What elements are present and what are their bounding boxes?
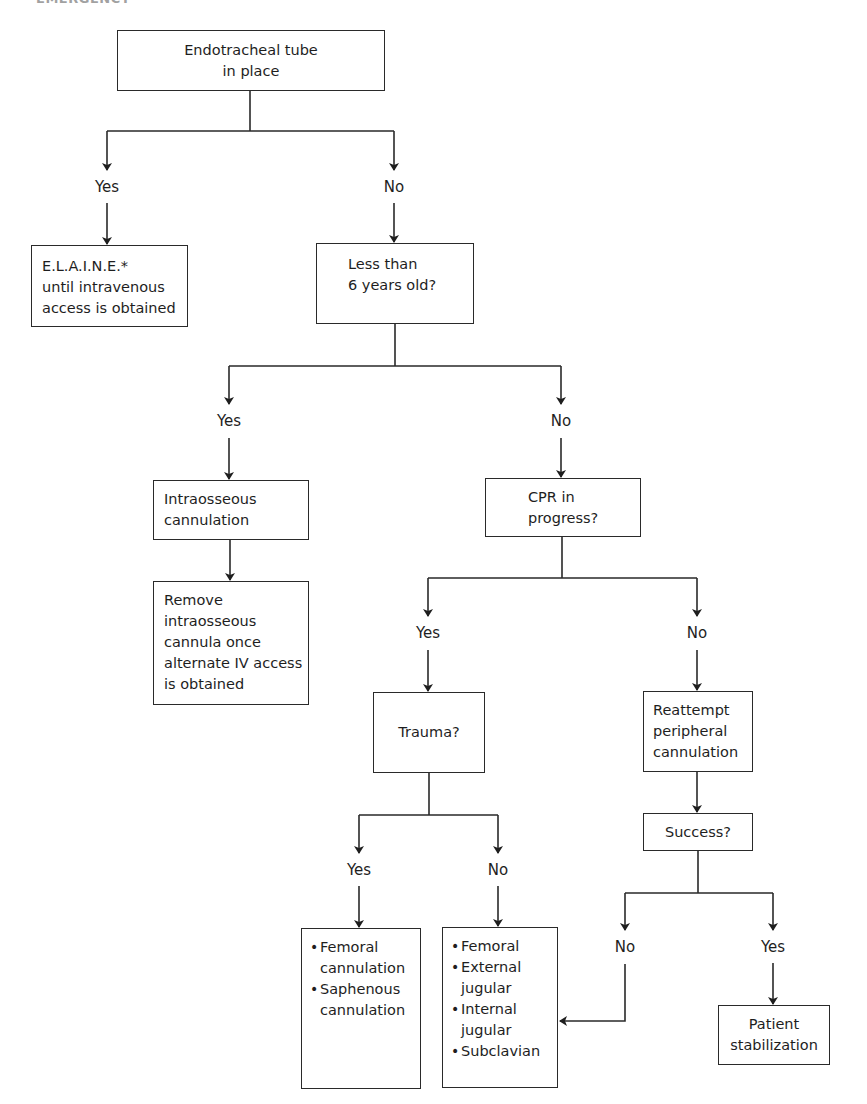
node-text: Remove bbox=[164, 590, 308, 611]
label-cpr-no: No bbox=[685, 624, 709, 642]
node-text: until intravenous bbox=[42, 277, 187, 298]
node-trauma-no-options: Femoral External jugular Internal jugula… bbox=[442, 927, 558, 1088]
node-text: is obtained bbox=[164, 674, 308, 695]
node-text: E.L.A.I.N.E.* bbox=[42, 256, 187, 277]
label-cpr-yes: Yes bbox=[414, 624, 442, 642]
node-text: peripheral bbox=[653, 721, 752, 742]
node-text: Trauma? bbox=[398, 722, 459, 743]
node-text: 6 years old? bbox=[348, 275, 473, 296]
node-patient-stabilization: Patient stabilization bbox=[718, 1005, 830, 1065]
node-text: intraosseous bbox=[164, 611, 308, 632]
node-reattempt-peripheral: Reattempt peripheral cannulation bbox=[643, 691, 753, 772]
label-age-yes: Yes bbox=[215, 412, 243, 430]
option-item: External jugular bbox=[451, 957, 557, 999]
node-text: jugular bbox=[461, 978, 557, 999]
option-item: Femoral cannulation bbox=[310, 937, 420, 979]
node-text: Reattempt bbox=[653, 700, 752, 721]
option-item: Saphenous cannulation bbox=[310, 979, 420, 1021]
node-intraosseous: Intraosseous cannulation bbox=[153, 480, 309, 540]
node-text: jugular bbox=[461, 1020, 557, 1041]
label-success-yes: Yes bbox=[759, 938, 787, 956]
option-item: Internal jugular bbox=[451, 999, 557, 1041]
label-start-no: No bbox=[382, 178, 406, 196]
node-text: Saphenous bbox=[320, 979, 420, 1000]
node-elaine: E.L.A.I.N.E.* until intravenous access i… bbox=[31, 245, 188, 327]
flowchart-connectors bbox=[0, 0, 867, 1104]
node-text: stabilization bbox=[730, 1035, 818, 1056]
label-age-no: No bbox=[549, 412, 573, 430]
node-text: Femoral bbox=[320, 937, 420, 958]
node-text: Endotracheal tube bbox=[184, 40, 318, 61]
node-text: cannulation bbox=[653, 742, 752, 763]
node-text: cannula once bbox=[164, 632, 308, 653]
node-text: Femoral bbox=[461, 936, 557, 957]
label-trauma-yes: Yes bbox=[345, 861, 373, 879]
node-text: cannulation bbox=[164, 510, 308, 531]
node-success-question: Success? bbox=[643, 813, 753, 851]
node-trauma-question: Trauma? bbox=[373, 692, 485, 773]
node-age-question: Less than 6 years old? bbox=[316, 243, 474, 324]
label-success-no: No bbox=[613, 938, 637, 956]
label-trauma-no: No bbox=[486, 861, 510, 879]
node-text: cannulation bbox=[320, 958, 420, 979]
node-text: CPR in bbox=[528, 487, 640, 508]
node-text: access is obtained bbox=[42, 298, 187, 319]
option-item: Subclavian bbox=[451, 1041, 557, 1062]
node-text: Patient bbox=[730, 1014, 818, 1035]
node-remove-cannula: Remove intraosseous cannula once alterna… bbox=[153, 581, 309, 705]
node-trauma-yes-options: Femoral cannulation Saphenous cannulatio… bbox=[301, 928, 421, 1089]
node-endotracheal-tube: Endotracheal tube in place bbox=[117, 30, 385, 91]
node-text: Intraosseous bbox=[164, 489, 308, 510]
node-text: in place bbox=[184, 61, 318, 82]
node-text: alternate IV access bbox=[164, 653, 308, 674]
node-text: Internal bbox=[461, 999, 557, 1020]
node-cpr-question: CPR in progress? bbox=[485, 478, 641, 537]
node-text: progress? bbox=[528, 508, 640, 529]
node-text: Subclavian bbox=[461, 1041, 557, 1062]
node-text: cannulation bbox=[320, 1000, 420, 1021]
option-item: Femoral bbox=[451, 936, 557, 957]
node-text: Less than bbox=[348, 254, 473, 275]
node-text: Success? bbox=[665, 822, 731, 843]
node-text: External bbox=[461, 957, 557, 978]
label-start-yes: Yes bbox=[93, 178, 121, 196]
